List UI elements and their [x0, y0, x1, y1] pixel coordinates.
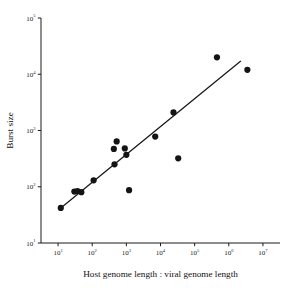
y-tick-label: 102: [26, 182, 36, 191]
x-tick-label: 105: [190, 248, 200, 257]
y-tick-label: 105: [26, 13, 36, 22]
data-point: [244, 67, 250, 73]
y-axis-title: Burst size: [5, 112, 15, 149]
data-point: [152, 133, 158, 139]
data-point: [122, 145, 128, 151]
x-tick-exponent: 5: [197, 248, 200, 253]
chart-canvas: 101102103104105101102103104105106107Host…: [0, 0, 299, 290]
x-tick-exponent: 6: [231, 248, 234, 253]
x-tick-label: 104: [156, 248, 166, 257]
data-point: [58, 205, 64, 211]
data-point: [111, 161, 117, 167]
data-point: [214, 54, 220, 60]
y-tick-exponent: 4: [33, 70, 36, 75]
y-tick-label: 103: [26, 126, 36, 135]
x-tick-exponent: 2: [95, 248, 98, 253]
data-point: [78, 189, 84, 195]
data-point: [114, 138, 120, 144]
x-tick-label: 101: [53, 248, 63, 257]
x-axis-title: Host genome length : viral genome length: [83, 269, 238, 279]
x-tick-label: 103: [122, 248, 132, 257]
y-tick-exponent: 5: [33, 13, 36, 18]
data-point: [170, 109, 176, 115]
scatter-plot-figure: 101102103104105101102103104105106107Host…: [0, 0, 299, 290]
data-point: [175, 155, 181, 161]
data-point: [111, 146, 117, 152]
x-tick-exponent: 7: [265, 248, 268, 253]
axis-spine: [41, 18, 280, 243]
x-tick-exponent: 4: [163, 248, 166, 253]
data-point: [126, 187, 132, 193]
y-tick-exponent: 3: [33, 126, 36, 131]
x-tick-exponent: 3: [129, 248, 132, 253]
regression-line: [61, 61, 241, 208]
y-tick-exponent: 2: [33, 182, 36, 187]
data-point: [123, 152, 129, 158]
data-point: [91, 177, 97, 183]
x-tick-label: 102: [88, 248, 98, 257]
y-tick-label: 101: [26, 238, 36, 247]
x-tick-label: 107: [258, 248, 268, 257]
x-tick-label: 106: [224, 248, 234, 257]
y-tick-exponent: 1: [33, 238, 36, 243]
y-tick-label: 104: [26, 70, 36, 79]
x-tick-exponent: 1: [60, 248, 63, 253]
